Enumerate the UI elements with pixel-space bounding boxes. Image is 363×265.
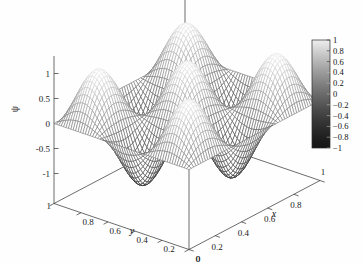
colorbar-tick-label: 0.2 (333, 79, 344, 88)
z-tick-label: 0 (46, 119, 51, 128)
x-axis-label: x (272, 209, 276, 219)
z-tick-label: -0.5 (36, 144, 50, 153)
colorbar-tick-label: 1 (333, 36, 337, 45)
y-tick-label: 0.2 (163, 245, 174, 254)
x-tick-label: 0.4 (238, 228, 249, 237)
surface-plot-figure: ψ 1 0.5 0 -0.5 -1 1 0.8 0.6 0.4 0.2 0 y … (0, 0, 363, 265)
z-axis-label: ψ (10, 102, 20, 116)
x-tick-label: 1 (321, 167, 326, 176)
colorbar-tick-label: −0.2 (333, 101, 348, 110)
colorbar-tick-label: 0 (333, 90, 337, 99)
z-tick-label: -1 (43, 169, 51, 178)
surface-plot-canvas (0, 0, 363, 265)
surface-mesh (54, 23, 320, 185)
colorbar-tick-label: 0.4 (333, 68, 344, 77)
colorbar-tick-label: 0.8 (333, 47, 344, 56)
z-tick-label: 1 (46, 69, 51, 78)
x-tick-label: 0.8 (290, 201, 301, 210)
y-tick-label: 0.8 (82, 217, 93, 226)
y-tick-label: 0.6 (109, 226, 120, 235)
y-tick-label: 1 (47, 201, 52, 210)
x-tick-label: 0 (196, 254, 201, 263)
z-tick-label: 0.5 (39, 94, 50, 103)
colorbar (312, 40, 330, 148)
y-axis-label: y (130, 226, 134, 236)
colorbar-tick-label: −0.4 (333, 111, 348, 120)
colorbar-tick-label: −0.8 (333, 133, 348, 142)
colorbar-tick-label: −1 (333, 144, 342, 153)
x-tick-label: 0.2 (212, 242, 223, 251)
colorbar-tick-label: 0.6 (333, 57, 344, 66)
colorbar-tick-label: −0.6 (333, 122, 348, 131)
y-tick-label: 0.4 (136, 236, 147, 245)
